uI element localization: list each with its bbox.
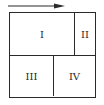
region-ii: II xyxy=(75,13,95,56)
region-iv-label: IV xyxy=(69,71,80,82)
region-i: I xyxy=(10,13,75,56)
right-arrow-icon xyxy=(8,2,66,10)
region-iv: IV xyxy=(54,56,95,96)
region-ii-label: II xyxy=(81,29,89,40)
region-i-label: I xyxy=(40,29,44,40)
region-iii: III xyxy=(10,56,54,96)
region-iii-label: III xyxy=(26,71,38,82)
partition-box: I II III IV xyxy=(9,12,96,98)
